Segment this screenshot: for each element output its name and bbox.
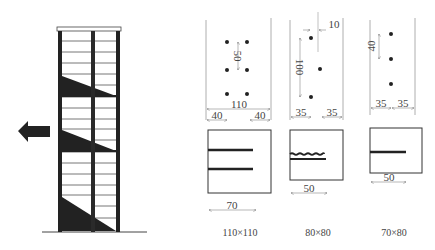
dim-left-edge: 40 (212, 109, 224, 121)
bolt-holes (389, 32, 393, 86)
weld-line-wavy (290, 153, 324, 155)
column-left (58, 31, 62, 232)
dim-plate-length: 50 (304, 182, 316, 194)
brace-top (62, 76, 116, 96)
dim-right-edge: 35 (398, 97, 410, 109)
dim-right-edge: 40 (255, 109, 267, 121)
diagram-canvas: 50 110 40 40 70 110×110 10 100 35 35 5 (0, 0, 435, 250)
dim-total: 110 (231, 98, 248, 110)
frame-elevation (18, 27, 147, 232)
dim-spacing: 50 (232, 51, 244, 63)
arrow-left-icon (18, 121, 50, 142)
dim-left-edge: 35 (296, 106, 308, 118)
dim-plate-length: 50 (384, 171, 396, 183)
caption: 80×80 (305, 227, 331, 238)
dim-right-edge: 35 (327, 106, 339, 118)
rungs-right (95, 41, 116, 218)
rungs-left (62, 41, 91, 195)
brace-bottom (62, 197, 116, 231)
plate (208, 130, 271, 193)
plate (370, 128, 422, 173)
column-center (91, 31, 95, 232)
dim-spacing: 100 (294, 59, 306, 76)
dim-left-edge: 35 (376, 97, 388, 109)
caption: 70×80 (381, 227, 407, 238)
dim-plate-length: 70 (227, 199, 239, 211)
dim-spacing: 40 (365, 40, 377, 52)
bolt-holes (225, 40, 249, 96)
column-right (116, 31, 120, 232)
caption: 110×110 (223, 227, 258, 238)
section-80: 10 100 35 35 50 80×80 (290, 12, 343, 238)
top-cap (57, 27, 121, 31)
section-110: 50 110 40 40 70 110×110 (206, 18, 271, 238)
bolt-holes (309, 36, 322, 99)
dim-offset: 10 (329, 18, 341, 30)
section-70: 40 35 35 50 70×80 (365, 18, 422, 238)
